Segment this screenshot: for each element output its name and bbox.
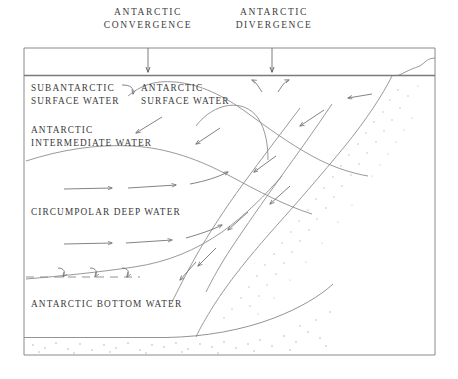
label-circumpolar-deep-water-line1: CIRCUMPOLAR DEEP WATER bbox=[31, 206, 181, 219]
deep-water-lower-arrows bbox=[64, 225, 222, 244]
continental-slope bbox=[196, 76, 392, 337]
label-antarctic-surface-water-line1: ANTARCTIC bbox=[141, 82, 230, 95]
header-divergence-line1: ANTARCTIC bbox=[222, 6, 326, 19]
intermediate-water-lower-boundary bbox=[26, 146, 312, 214]
header-divergence: ANTARCTIC DIVERGENCE bbox=[222, 6, 326, 32]
deep-bottom-boundary bbox=[26, 176, 282, 279]
label-antarctic-intermediate-water-line1: ANTARCTIC bbox=[31, 124, 152, 137]
header-divergence-line2: DIVERGENCE bbox=[222, 19, 326, 32]
slope-streamlines bbox=[172, 104, 332, 302]
header-convergence-line2: CONVERGENCE bbox=[96, 19, 200, 32]
convergence-sinking-arrow bbox=[122, 85, 133, 94]
header-convergence-line1: ANTARCTIC bbox=[96, 6, 200, 19]
header-convergence: ANTARCTIC CONVERGENCE bbox=[96, 6, 200, 32]
upwelling-dome bbox=[196, 105, 268, 160]
label-antarctic-intermediate-water-line2: INTERMEDIATE WATER bbox=[31, 137, 152, 150]
diagram-canvas: ANTARCTIC CONVERGENCE ANTARCTIC DIVERGEN… bbox=[0, 0, 458, 379]
label-antarctic-bottom-water-line1: ANTARCTIC BOTTOM WATER bbox=[31, 298, 182, 311]
label-antarctic-surface-water: ANTARCTIC SURFACE WATER bbox=[141, 82, 230, 107]
diagram-svg bbox=[0, 0, 458, 379]
label-circumpolar-deep-water: CIRCUMPOLAR DEEP WATER bbox=[31, 206, 181, 219]
seafloor-line bbox=[24, 284, 333, 338]
shelf-inflow-arrow bbox=[348, 94, 372, 98]
seafloor-stipple bbox=[32, 311, 330, 353]
label-antarctic-bottom-water: ANTARCTIC BOTTOM WATER bbox=[31, 298, 182, 311]
divergence-surface-arrows bbox=[252, 80, 289, 92]
slope-descending-arrows bbox=[180, 186, 290, 280]
label-antarctic-intermediate-water: ANTARCTIC INTERMEDIATE WATER bbox=[31, 124, 152, 149]
label-subantarctic-surface-water-line2: SURFACE WATER bbox=[31, 95, 120, 108]
intermediate-water-flow-arrows bbox=[136, 110, 324, 172]
deep-water-upper-arrows bbox=[64, 172, 228, 189]
label-subantarctic-surface-water: SUBANTARCTIC SURFACE WATER bbox=[31, 82, 120, 107]
label-antarctic-surface-water-line2: SURFACE WATER bbox=[141, 95, 230, 108]
label-subantarctic-surface-water-line1: SUBANTARCTIC bbox=[31, 82, 120, 95]
coastline-profile bbox=[398, 58, 435, 76]
